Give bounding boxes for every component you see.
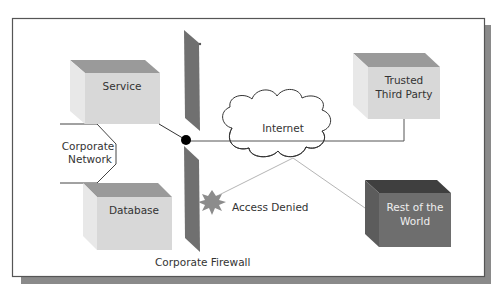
trusted-third-party-label-1: Trusted bbox=[384, 74, 424, 86]
corporate-network-label-2: Network bbox=[68, 153, 113, 165]
service-box bbox=[70, 60, 160, 124]
trusted-third-party-label-2: Third Party bbox=[374, 88, 432, 100]
firewall-junction-node bbox=[181, 135, 191, 145]
internet-label: Internet bbox=[262, 122, 304, 134]
corporate-network-label-1: Corporate bbox=[62, 140, 115, 152]
network-diagram: Service Database Trusted Third Party Res… bbox=[0, 0, 500, 299]
trusted-third-party-box bbox=[353, 53, 440, 119]
rest-of-world-label-2: World bbox=[400, 215, 430, 227]
service-label: Service bbox=[103, 80, 142, 92]
database-label: Database bbox=[109, 204, 159, 216]
database-box bbox=[83, 183, 172, 250]
access-denied-label: Access Denied bbox=[232, 201, 309, 213]
rest-of-world-label-1: Rest of the bbox=[387, 201, 444, 213]
corporate-firewall-label: Corporate Firewall bbox=[155, 256, 250, 268]
rest-of-world-box bbox=[365, 180, 451, 247]
